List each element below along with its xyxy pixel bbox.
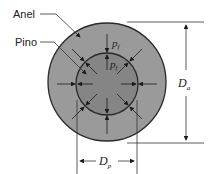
ring-label: Anel [13,8,35,20]
outer-diameter-label: Da [177,76,191,92]
pin-label: Pino [15,36,37,48]
press-fit-diagram: Anel Pino pf pf Da Dp [0,0,209,174]
pin-diameter-label: Dp [98,154,112,170]
